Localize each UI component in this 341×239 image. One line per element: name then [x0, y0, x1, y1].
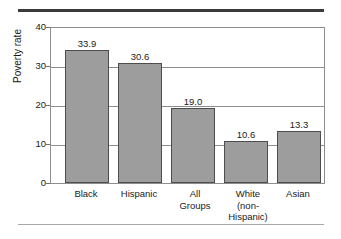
bar-white[interactable]	[224, 141, 268, 183]
x-category-white-line-2: (non-	[215, 200, 281, 212]
x-category-asian: Asian	[274, 188, 322, 200]
bar-value-hispanic: 30.6	[118, 52, 162, 62]
ytick-mark-0	[46, 183, 50, 184]
bar-all-groups[interactable]	[171, 108, 215, 183]
x-category-white-line-1: White	[215, 188, 281, 200]
ytick-label-40: 40	[20, 22, 46, 32]
ytick-label-0: 0	[20, 178, 46, 188]
x-category-white: White (non- Hispanic)	[215, 188, 281, 223]
x-category-hispanic-line-1: Hispanic	[110, 188, 168, 200]
x-category-black: Black	[64, 188, 108, 200]
ytick-mark-20	[46, 105, 50, 106]
x-category-white-line-3: Hispanic)	[215, 211, 281, 223]
ytick-label-10: 10	[20, 139, 46, 149]
bottom-divider-rule	[18, 224, 324, 225]
ytick-mark-40	[46, 27, 50, 28]
ytick-mark-30	[46, 66, 50, 67]
x-category-black-line-1: Black	[64, 188, 108, 200]
bar-hispanic[interactable]	[118, 63, 162, 183]
bar-value-white: 10.6	[224, 130, 268, 140]
top-divider-rule	[18, 9, 324, 12]
ytick-label-20: 20	[20, 100, 46, 110]
bar-value-asian: 13.3	[277, 120, 321, 130]
bar-asian[interactable]	[277, 131, 321, 183]
ytick-mark-10	[46, 144, 50, 145]
x-category-asian-line-1: Asian	[274, 188, 322, 200]
bar-black[interactable]	[65, 50, 109, 183]
y-axis-label: Poverty rate	[13, 6, 23, 106]
ytick-label-30: 30	[20, 61, 46, 71]
bar-value-black: 33.9	[65, 39, 109, 49]
chart-figure: 33.9 30.6 19.0 10.6 13.3 40 30 20 10 0 P…	[0, 0, 341, 239]
x-category-hispanic: Hispanic	[110, 188, 168, 200]
bar-value-all-groups: 19.0	[171, 97, 215, 107]
plot-area: 33.9 30.6 19.0 10.6 13.3	[50, 27, 325, 184]
